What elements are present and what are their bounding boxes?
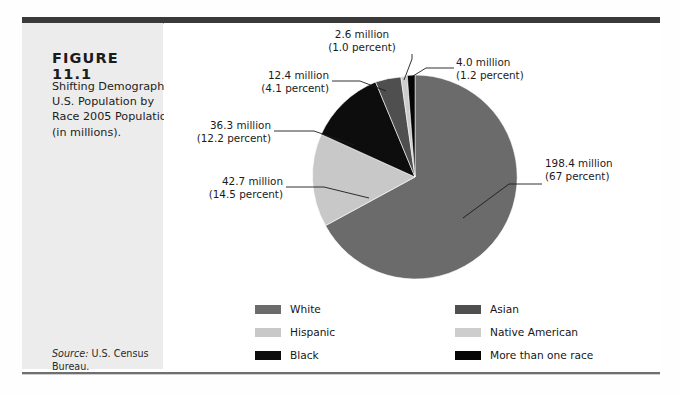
figure-container: FIGURE 11.1 Shifting Demographics U.S. P… <box>0 0 680 397</box>
callout-more-than-one-race-value: 4.0 million <box>456 56 510 68</box>
callout-black-value: 36.3 million <box>210 119 271 131</box>
figure-number-heading: FIGURE 11.1 <box>52 50 163 82</box>
callout-native-american: 2.6 million (1.0 percent) <box>312 28 412 55</box>
callout-white-value: 198.4 million <box>545 157 613 169</box>
callout-hispanic-value: 42.7 million <box>222 175 283 187</box>
callout-white: 198.4 million (67 percent) <box>545 157 613 184</box>
figure-source-note: Source: U.S. Census Bureau. <box>52 348 180 373</box>
legend-label-white: White <box>290 303 321 315</box>
chart-legend: White Hispanic Black Asian Native Americ… <box>255 303 655 365</box>
legend-label-native-american: Native American <box>490 326 578 338</box>
callout-asian-percent: (4.1 percent) <box>214 82 329 95</box>
legend-label-black: Black <box>290 349 319 361</box>
legend-item-more-than-one-race[interactable]: More than one race <box>455 349 593 361</box>
legend-swatch-more-than-one-race <box>455 351 481 360</box>
callout-native-american-value: 2.6 million <box>335 28 389 40</box>
legend-label-asian: Asian <box>490 303 519 315</box>
callout-black: 36.3 million (12.2 percent) <box>156 119 271 146</box>
legend-swatch-asian <box>455 305 481 314</box>
legend-item-asian[interactable]: Asian <box>455 303 519 315</box>
callout-native-american-percent: (1.0 percent) <box>312 41 412 54</box>
callout-hispanic: 42.7 million (14.5 percent) <box>168 175 283 202</box>
legend-label-hispanic: Hispanic <box>290 326 335 338</box>
legend-item-native-american[interactable]: Native American <box>455 326 578 338</box>
legend-item-white[interactable]: White <box>255 303 321 315</box>
legend-label-more-than-one-race: More than one race <box>490 349 593 361</box>
callout-hispanic-percent: (14.5 percent) <box>168 188 283 201</box>
legend-swatch-white <box>255 305 281 314</box>
callout-asian-value: 12.4 million <box>268 69 329 81</box>
callout-more-than-one-race: 4.0 million (1.2 percent) <box>456 56 524 83</box>
legend-swatch-hispanic <box>255 328 281 337</box>
callout-black-percent: (12.2 percent) <box>156 132 271 145</box>
figure-caption-panel: FIGURE 11.1 Shifting Demographics U.S. P… <box>22 23 163 369</box>
figure-bottom-rule <box>22 372 660 374</box>
legend-item-hispanic[interactable]: Hispanic <box>255 326 335 338</box>
callout-asian: 12.4 million (4.1 percent) <box>214 69 329 96</box>
legend-swatch-native-american <box>455 328 481 337</box>
legend-item-black[interactable]: Black <box>255 349 319 361</box>
legend-swatch-black <box>255 351 281 360</box>
callout-white-percent: (67 percent) <box>545 170 613 183</box>
source-label: Source: <box>52 348 88 359</box>
callout-more-than-one-race-percent: (1.2 percent) <box>456 69 524 82</box>
